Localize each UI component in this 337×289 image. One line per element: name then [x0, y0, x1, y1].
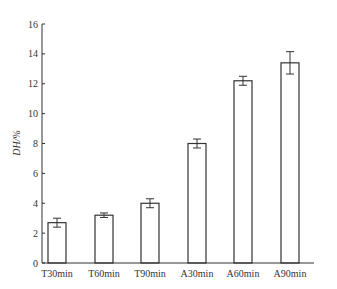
bar: [234, 76, 252, 263]
bar: [188, 139, 206, 263]
bar: [95, 213, 113, 263]
y-axis: 0246810121416: [28, 19, 45, 269]
bar: [141, 199, 159, 263]
x-tick-label: A90min: [274, 268, 307, 279]
y-tick-label: 16: [28, 19, 38, 30]
y-axis-label: DH/%: [11, 130, 22, 157]
y-tick-label: 14: [28, 48, 38, 59]
y-tick-label: 4: [33, 198, 38, 209]
x-axis: T30minT60minT90minA30minA60minA90min: [41, 263, 314, 279]
bar: [48, 218, 66, 263]
y-tick-label: 0: [33, 258, 38, 269]
y-tick-label: 6: [33, 168, 38, 179]
x-tick-label: A60min: [227, 268, 260, 279]
x-tick-label: T60min: [88, 268, 120, 279]
x-tick-label: A30min: [181, 268, 214, 279]
y-tick-label: 8: [33, 138, 38, 149]
y-tick-label: 12: [28, 78, 38, 89]
x-tick-label: T30min: [41, 268, 73, 279]
bar-chart: 0246810121416 T30minT60minT90minA30minA6…: [0, 0, 337, 289]
y-tick-label: 10: [28, 108, 38, 119]
bars: [48, 52, 299, 263]
x-tick-label: T90min: [134, 268, 166, 279]
bar: [281, 52, 299, 263]
y-tick-label: 2: [33, 228, 38, 239]
